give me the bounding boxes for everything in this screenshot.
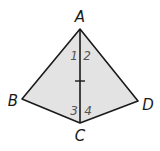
vertex-label-B: B (8, 92, 18, 110)
geometry-diagram: A B C D 1 2 3 4 (0, 0, 160, 151)
vertex-label-D: D (142, 96, 154, 114)
angle-label-1: 1 (70, 49, 78, 63)
vertex-label-C: C (75, 127, 86, 145)
angle-label-4: 4 (84, 104, 92, 118)
angle-label-2: 2 (83, 49, 91, 63)
angle-label-3: 3 (70, 104, 78, 118)
vertex-label-A: A (74, 8, 85, 26)
